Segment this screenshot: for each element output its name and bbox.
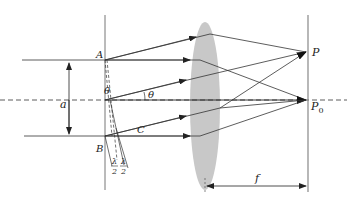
- ray-arrow: [105, 37, 196, 60]
- angle-arc: [144, 92, 145, 100]
- diffraction-diagram: a A B C θ θ P P0 λ 2 λ 2 f: [0, 0, 347, 203]
- label-two-1: 2: [111, 167, 117, 176]
- label-P0: P0: [310, 100, 324, 115]
- label-lambda-1: λ: [111, 157, 117, 166]
- label-A: A: [95, 49, 103, 60]
- label-theta-slit: θ: [104, 85, 110, 96]
- wavefront-AC: [105, 60, 112, 136]
- label-lambda-2: λ: [120, 157, 126, 166]
- halfwave-line-3: [105, 136, 112, 166]
- label-a: a: [60, 98, 67, 111]
- label-C: C: [137, 124, 145, 135]
- ray-arrow: [105, 80, 186, 100]
- label-P: P: [311, 46, 320, 59]
- label-theta-ray: θ: [148, 89, 154, 100]
- label-two-2: 2: [120, 167, 126, 176]
- lens: [190, 22, 220, 190]
- label-f: f: [254, 172, 261, 185]
- label-B: B: [95, 143, 103, 154]
